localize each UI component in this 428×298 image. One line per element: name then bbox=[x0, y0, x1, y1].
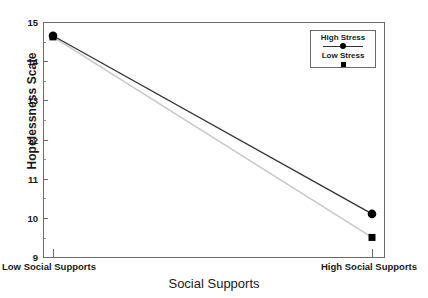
y-tick-minor-9-5 bbox=[43, 238, 46, 239]
legend-label-high-stress: High Stress bbox=[311, 33, 375, 43]
x-tick-high-social-supports bbox=[372, 249, 373, 258]
legend-key-high-stress bbox=[311, 43, 375, 51]
legend-label-low-stress: Low Stress bbox=[311, 51, 375, 61]
y-tick-minor-10-5 bbox=[43, 198, 46, 199]
y-tick-12 bbox=[43, 140, 48, 141]
x-tick-label-low: Low Social Supports bbox=[2, 261, 96, 272]
legend: High Stress Low Stress bbox=[310, 30, 376, 68]
x-tick-label-high: High Social Supports bbox=[321, 261, 417, 272]
y-tick-minor-12-5 bbox=[43, 120, 46, 121]
y-tick-minor-11-5 bbox=[43, 159, 46, 160]
y-tick-minor-14-5 bbox=[43, 42, 46, 43]
hopelessness-scale-chart: 15 14 13 12 11 10 9 Low Social Supports … bbox=[0, 0, 428, 298]
y-tick-13 bbox=[43, 100, 48, 101]
y-tick-14 bbox=[43, 61, 48, 62]
y-tick-label-10: 10 bbox=[6, 214, 38, 224]
legend-entry-low-stress: Low Stress bbox=[311, 51, 375, 69]
y-tick-10 bbox=[43, 218, 48, 219]
circle-marker-icon bbox=[340, 43, 346, 49]
y-tick-11 bbox=[43, 179, 48, 180]
x-tick-low-social-supports bbox=[53, 249, 54, 258]
y-tick-15 bbox=[43, 22, 48, 23]
y-axis-title: Hopelessness Scale bbox=[25, 21, 39, 201]
legend-key-low-stress bbox=[311, 61, 375, 69]
x-axis-title: Social Supports bbox=[43, 276, 385, 291]
square-marker-icon bbox=[341, 62, 346, 67]
y-tick-minor-13-5 bbox=[43, 81, 46, 82]
legend-entry-high-stress: High Stress bbox=[311, 33, 375, 51]
y-tick-9 bbox=[43, 257, 48, 258]
